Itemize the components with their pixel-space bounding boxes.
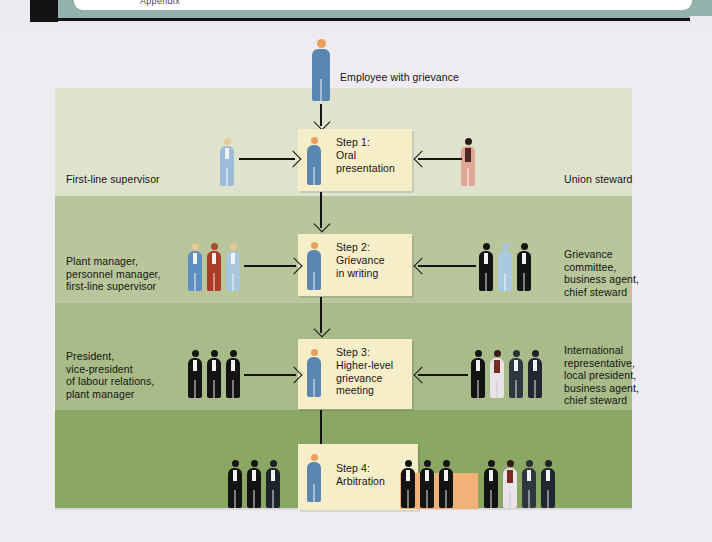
figure-head [270,460,277,467]
label-management-row-2: Plant manager, personnel manager, first-… [66,255,161,293]
figure-union-arbitration-4 [540,460,556,508]
figure-plant-manager [187,243,203,291]
figure-shirt [231,360,235,371]
figure-shirt [231,253,235,264]
figure-legs [213,273,215,291]
figure-head [224,138,231,145]
figure-legs [515,380,517,398]
figure-head [311,349,318,356]
tab-label: Appendix [140,0,180,6]
figure-first-line-supervisor-2 [225,243,241,291]
figure-head [211,350,218,357]
figure-shirt [193,253,197,264]
figure-shirt [193,360,197,371]
figure-union-arbitration-1 [483,460,499,508]
figure-head [232,460,239,467]
label-union-row-2: Grievance committee, business agent, chi… [564,248,639,298]
label-union-row-3: International representative, local pres… [564,344,639,407]
top-chrome-strip: Appendix [0,0,712,26]
figure-head [532,350,539,357]
figure-head [211,243,218,250]
figure-shirt [494,360,500,373]
figure-head [311,137,318,144]
figure-legs [232,273,234,291]
figure-vice-president [206,350,222,398]
figure-business-agent-3 [508,350,524,398]
figure-shirt [444,470,448,481]
step-2-label: Step 2: Grievance in writing [336,241,385,279]
figure-management-arbitration-3 [265,460,281,508]
figure-union-arbitration-2 [502,460,518,508]
figure-legs [272,490,274,508]
figure-head [311,242,318,249]
step-3-label: Step 3: Higher-level grievance meeting [336,346,393,397]
step-box-1[interactable]: Step 1: Oral presentation [298,129,412,191]
figure-head [521,243,528,250]
figure-shirt [252,470,256,481]
figure-legs [234,490,236,508]
figure-personnel-manager [206,243,222,291]
figure-shirt [527,470,531,481]
step-box-2[interactable]: Step 2: Grievance in writing [298,234,412,296]
figure-president [187,350,203,398]
figure-shirt [425,470,429,481]
figure-head [475,350,482,357]
figure-step4-employee [306,454,322,502]
figure-head [230,243,237,250]
figure-international-representative [470,350,486,398]
figure-employee-with-grievance [310,39,332,101]
step-1-label: Step 1: Oral presentation [336,136,395,174]
figure-plant-manager-3 [225,350,241,398]
step-4-label: Step 4: Arbitration [336,462,385,488]
figure-head [443,460,450,467]
figure-legs [232,380,234,398]
figure-legs [504,273,506,291]
figure-head [494,350,501,357]
top-right-notch [690,16,712,26]
figure-chief-steward [516,243,532,291]
step-box-3[interactable]: Step 3: Higher-level grievance meeting [298,339,412,409]
figure-management-arbitration-1 [227,460,243,508]
label-management-row-3: President, vice-president of labour rela… [66,350,154,400]
figure-chief-steward-3 [527,350,543,398]
figure-shirt [507,470,513,483]
label-management-row-1: First-line supervisor [66,173,160,186]
figure-head [230,350,237,357]
figure-head [424,460,431,467]
figure-head [545,460,552,467]
figure-shirt [212,360,216,371]
label-union-row-1: Union steward [564,173,632,186]
figure-legs [226,168,228,186]
figure-shirt [489,470,493,481]
figure-shirt [271,470,275,481]
figure-legs [496,380,498,398]
figure-shirt [406,470,410,481]
figure-shirt [533,360,537,371]
diagram-page: Appendix Employee with grievance [0,0,712,542]
figure-shirt [484,253,488,264]
figure-business-agent [497,243,513,291]
figure-legs [313,379,315,397]
figure-legs [426,490,428,508]
figure-first-line-supervisor [219,138,235,186]
figure-legs [445,490,447,508]
figure-head [311,454,318,461]
figure-head [513,350,520,357]
figure-legs [547,490,549,508]
figure-head [507,460,514,467]
figure-legs [194,273,196,291]
figure-legs [485,273,487,291]
figure-union-arbitration-3 [521,460,537,508]
black-corner-block [30,0,58,22]
figure-legs [534,380,536,398]
figure-legs [528,490,530,508]
figure-legs [320,79,322,101]
figure-head [405,460,412,467]
figure-legs [407,490,409,508]
figure-shirt [212,253,216,264]
figure-legs [194,380,196,398]
figure-step3-employee [306,349,322,397]
figure-head [192,243,199,250]
figure-head [192,350,199,357]
figure-shirt [476,360,480,371]
